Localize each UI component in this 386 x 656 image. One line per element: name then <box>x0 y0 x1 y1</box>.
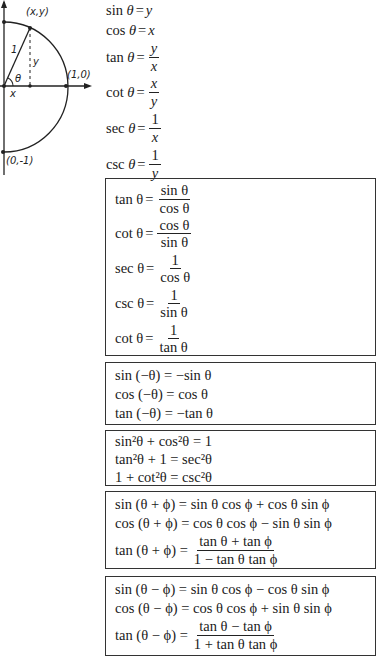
identity-row: cot θ= cos θsin θ <box>106 216 375 251</box>
fn-name: sin <box>106 2 123 19</box>
fn-name: cot <box>106 84 124 101</box>
quotient-reciprocal-box: tan θ= sin θcos θ cot θ= cos θsin θ sec … <box>105 178 376 356</box>
fn-arg: θ <box>128 156 135 173</box>
fraction: xy <box>149 76 159 108</box>
unit-circle-diagram: (x,y) (1,0) (0,-1) 1 y x θ <box>0 0 100 175</box>
fraction: 1cos θ <box>158 253 192 285</box>
identity-row: sin (−θ) = −sin θ <box>106 366 375 385</box>
fraction: tan θ + tan ϕ1 − tan θ tan ϕ <box>192 534 280 566</box>
difference-formulas-box: sin (θ − ϕ) = sin θ cos ϕ − cos θ sin ϕ … <box>105 576 376 656</box>
fn-arg: θ <box>129 22 136 39</box>
numerator: sin θ <box>159 183 191 200</box>
lhs: cot θ <box>115 330 143 347</box>
fraction: tan θ − tan ϕ1 + tan θ tan ϕ <box>192 619 280 651</box>
definition-sec: sec θ= 1x <box>106 110 161 146</box>
fraction: 1sin θ <box>158 288 190 320</box>
lhs: sec θ <box>115 260 144 277</box>
numerator: tan θ + tan ϕ <box>197 534 274 551</box>
numerator: 1 <box>149 112 160 129</box>
identity-row: tan²θ + 1 = sec²θ <box>106 450 375 468</box>
fraction: yx <box>149 41 159 73</box>
denominator: y <box>149 93 159 109</box>
denominator: 1 + tan θ tan ϕ <box>192 636 280 652</box>
numerator: cos θ <box>157 218 191 235</box>
identity-row: tan (−θ) = −tan θ <box>106 404 375 423</box>
definition-sin: sin θ=y <box>106 0 161 20</box>
identity-row: cot θ= 1tan θ <box>106 321 375 356</box>
definition-csc: csc θ= 1y <box>106 146 161 182</box>
lhs: tan (θ + ϕ) = <box>115 542 188 559</box>
fraction: cos θsin θ <box>157 218 191 250</box>
definition-cot: cot θ= xy <box>106 74 161 110</box>
identity-row: tan (θ + ϕ) = tan θ + tan ϕ1 − tan θ tan… <box>106 533 375 567</box>
denominator: x <box>149 58 159 74</box>
denominator: cos θ <box>157 200 191 216</box>
identity-row: csc θ= 1sin θ <box>106 286 375 321</box>
numerator: 1 <box>168 323 179 340</box>
fraction: sin θcos θ <box>157 183 191 215</box>
denominator: sin θ <box>158 304 190 320</box>
point-xy-label: (x,y) <box>26 6 49 17</box>
identity-row: sin (θ − ϕ) = sin θ cos ϕ − cos θ sin ϕ <box>106 580 375 599</box>
rhs: x <box>148 22 154 39</box>
identity-row: sin (θ + ϕ) = sin θ cos ϕ + cos θ sin ϕ <box>106 495 375 514</box>
numerator: y <box>149 41 159 58</box>
numerator: 1 <box>149 148 160 165</box>
denominator: 1 − tan θ tan ϕ <box>192 551 280 567</box>
fn-name: cos <box>106 22 125 39</box>
point-0-neg1-label: (0,-1) <box>6 155 33 166</box>
rhs: y <box>146 2 152 19</box>
fn-name: sec <box>106 120 125 137</box>
fraction: 1y <box>149 148 160 180</box>
identity-row: 1 + cot²θ = csc²θ <box>106 468 375 486</box>
lhs: csc θ <box>115 295 144 312</box>
pythagorean-box: sin²θ + cos²θ = 1 tan²θ + 1 = sec²θ 1 + … <box>105 430 376 486</box>
adjacent-label: x <box>10 88 16 99</box>
numerator: tan θ − tan ϕ <box>197 619 274 636</box>
fraction: 1tan θ <box>157 323 189 355</box>
point-1-0-label: (1,0) <box>67 69 91 80</box>
definition-tan: tan θ= yx <box>106 40 161 74</box>
fn-arg: θ <box>127 84 134 101</box>
denominator: sin θ <box>159 234 191 250</box>
identity-row: sin²θ + cos²θ = 1 <box>106 432 375 450</box>
fraction: 1x <box>149 112 160 144</box>
fn-arg: θ <box>128 120 135 137</box>
identity-row: cos (θ − ϕ) = cos θ cos ϕ + sin θ sin ϕ <box>106 599 375 618</box>
lhs: tan (θ − ϕ) = <box>115 627 188 644</box>
identity-row: tan (θ − ϕ) = tan θ − tan ϕ1 + tan θ tan… <box>106 618 375 652</box>
identity-row: cos (θ + ϕ) = cos θ cos ϕ − sin θ sin ϕ <box>106 514 375 533</box>
negative-angle-box: sin (−θ) = −sin θ cos (−θ) = cos θ tan (… <box>105 362 376 425</box>
lhs: tan θ <box>115 191 143 208</box>
definition-cos: cos θ=x <box>106 20 161 40</box>
fn-name: csc <box>106 156 125 173</box>
angle-theta-label: θ <box>15 73 21 84</box>
numerator: x <box>149 76 159 93</box>
fn-arg: θ <box>127 2 134 19</box>
definitions-list: sin θ=y cos θ=x tan θ= yx cot θ= xy sec … <box>106 0 161 182</box>
numerator: 1 <box>168 288 179 305</box>
denominator: cos θ <box>158 269 192 285</box>
denominator: x <box>150 129 160 145</box>
hypotenuse-label: 1 <box>11 44 17 55</box>
opposite-label: y <box>33 56 39 67</box>
fn-name: tan <box>106 49 124 66</box>
identity-row: tan θ= sin θcos θ <box>106 182 375 216</box>
denominator: tan θ <box>157 339 189 355</box>
sum-formulas-box: sin (θ + ϕ) = sin θ cos ϕ + cos θ sin ϕ … <box>105 491 376 569</box>
numerator: 1 <box>170 253 181 270</box>
identity-row: sec θ= 1cos θ <box>106 251 375 286</box>
lhs: cot θ <box>115 225 143 242</box>
identity-row: cos (−θ) = cos θ <box>106 385 375 404</box>
fn-arg: θ <box>127 49 134 66</box>
